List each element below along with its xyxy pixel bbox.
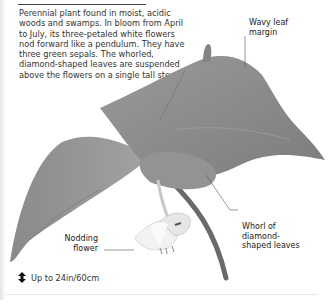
nodding-flower <box>135 213 190 254</box>
callout-line: shaped leaves <box>242 241 300 251</box>
up-down-arrow-icon <box>18 272 26 283</box>
callout-line: diamond- <box>242 232 300 242</box>
divider <box>6 294 318 295</box>
callout-whorl: Whorl of diamond- shaped leaves <box>242 222 300 251</box>
height-label: Up to 24in/60cm <box>31 273 99 283</box>
callout-line: Whorl of <box>242 222 300 232</box>
callout-line: margin <box>249 28 288 38</box>
field-guide-page: NODDING TRILLIUM Perennial plant found i… <box>0 0 329 307</box>
callout-line: flower <box>54 244 98 254</box>
callout-wavy-leaf-margin: Wavy leaf margin <box>249 18 288 37</box>
callout-line: Wavy leaf <box>249 18 288 28</box>
trillium-illustration <box>0 0 329 300</box>
callout-nodding-flower: Nodding flower <box>54 234 98 253</box>
callout-line: Nodding <box>54 234 98 244</box>
plant-height: Up to 24in/60cm <box>18 272 99 283</box>
